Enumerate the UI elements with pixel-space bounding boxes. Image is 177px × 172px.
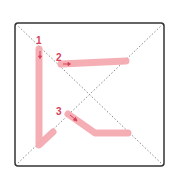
stroke-number-2: 2 (56, 52, 62, 63)
stroke-2 (61, 61, 126, 64)
stroke-number-1: 1 (36, 35, 42, 46)
stroke-order-diagram: 1 2 3 (0, 0, 177, 172)
stroke-number-3: 3 (56, 106, 62, 117)
